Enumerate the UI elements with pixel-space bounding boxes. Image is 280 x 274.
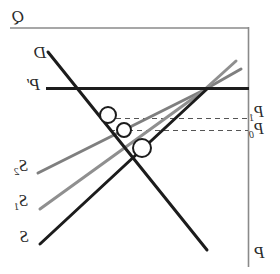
price-0-subscript: 0 <box>249 129 254 140</box>
price-axis-label: P <box>254 244 264 261</box>
equilibrium-marker-e1 <box>117 123 131 137</box>
price-ceiling-label: P′ <box>26 76 40 93</box>
supply-curve-s1 <box>40 89 206 209</box>
supply-2-label: S2 <box>14 157 28 178</box>
price-ceiling-prime-glyph: ′ <box>26 75 30 94</box>
quantity-axis-label: Q <box>12 8 24 25</box>
equilibrium-marker-e2 <box>100 107 116 123</box>
supply-1-subscript: 1 <box>14 201 19 212</box>
supply-demand-figure: Q D P′ P1 P0 S2 S1 S P <box>0 0 280 274</box>
demand-curve-label: D <box>34 44 46 61</box>
equilibrium-marker-e0 <box>133 139 151 157</box>
price-0-label: P0 <box>249 121 264 140</box>
supply-2-subscript: 2 <box>14 166 19 177</box>
demand-curve-d <box>48 52 207 250</box>
supply-1-label: S1 <box>14 192 28 213</box>
supply-label: S <box>20 228 29 245</box>
supply-demand-plot <box>0 0 280 274</box>
